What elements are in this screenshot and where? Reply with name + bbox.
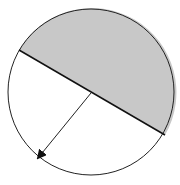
circle-diagram: [0, 0, 180, 185]
